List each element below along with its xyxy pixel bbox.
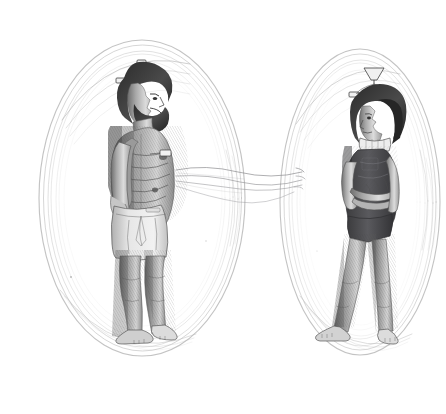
ink-illustration xyxy=(0,0,446,414)
illustration-canvas: Bearded man standing in profile Short-ha… xyxy=(0,0,446,414)
